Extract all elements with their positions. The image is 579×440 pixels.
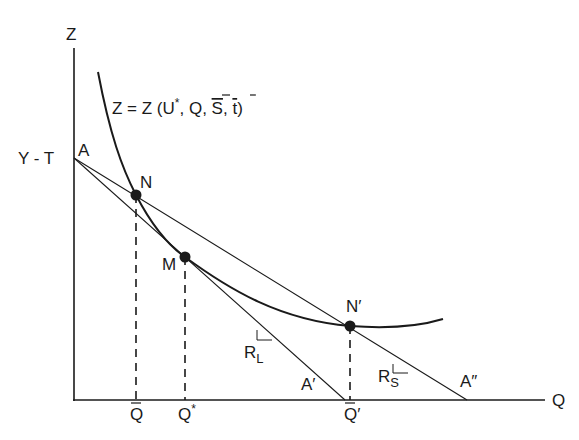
point-a-double-prime-label: A″ [460,372,477,391]
diagram-canvas: Z Q Y - T Z = Z (U*, Q, S, t) A N M N′ A… [0,0,579,440]
point-n-prime-label: N′ [346,297,361,316]
point-a-prime-label: A′ [301,375,316,394]
intercept-label: Y - T [18,149,54,168]
point-m-label: M [162,255,176,274]
z-axis-label: Z [66,25,76,44]
tick-q-star: Q* [178,402,196,424]
point-a-label: A [78,141,90,160]
budget-line-a-a-prime [74,158,345,400]
slope-mark-r-s [393,364,408,373]
slope-label-r-s: RS [378,367,399,390]
tick-q-bar-prime: Q′ [344,405,360,424]
slope-label-r-l: RL [244,343,264,366]
s-bar: S [212,99,223,118]
slope-mark-r-l [257,330,272,340]
point-m-marker [180,252,191,263]
q-axis-label: Q [552,391,565,410]
tick-q-bar: Q [130,405,143,424]
point-n-prime-marker [345,321,356,332]
point-n-label: N [140,173,152,192]
curve-label: Z = Z (U*, Q, S, t) [112,96,243,118]
